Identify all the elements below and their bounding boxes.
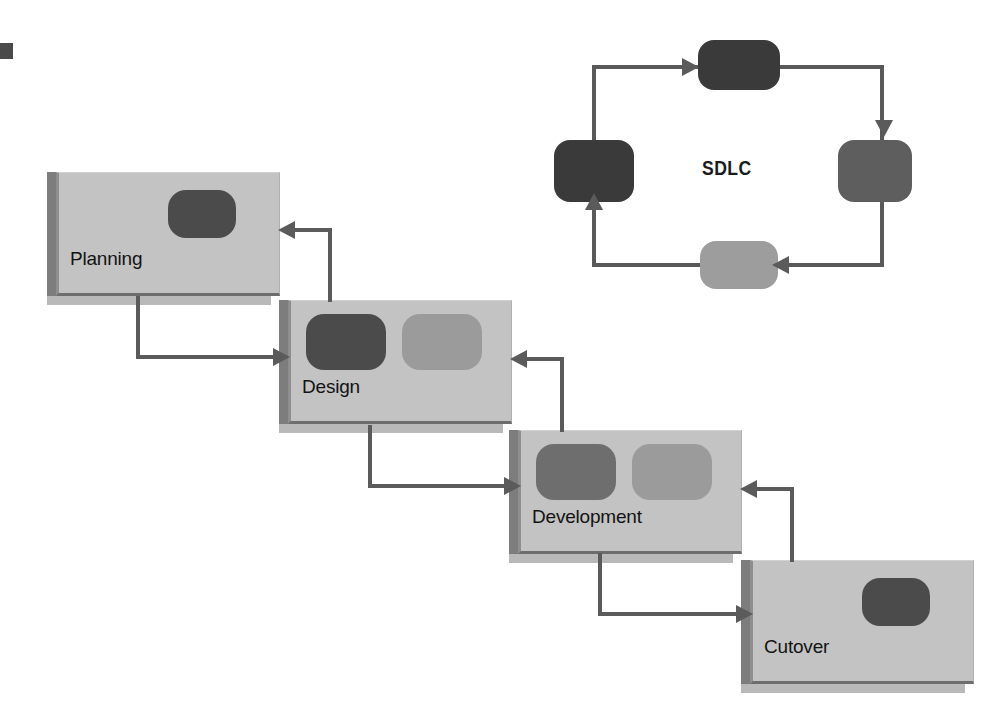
stage-label-design: Design [302,376,360,398]
connector-cutover-to-development-vertical [790,487,794,562]
stage-pill-primary [168,190,236,238]
stage-label-development: Development [532,506,642,528]
connector-development-to-design-horizontal [527,357,564,361]
stage-label-cutover: Cutover [764,636,829,658]
stage-label-planning: Planning [70,248,142,270]
arrowhead-design-to-planning [278,221,295,239]
cycle-node-right[interactable] [838,140,912,202]
stage-pill-primary [536,444,616,500]
connector-planning-to-design-vertical [136,296,140,359]
arrowhead-cutover-to-development [740,480,757,498]
arrowhead-design-to-development [504,477,521,495]
stage-planning[interactable]: Planning [56,172,280,296]
connector-planning-to-design-horizontal [136,355,276,359]
cycle-edge-bottom-left-horizontal [592,263,706,267]
stage-face [56,172,280,296]
cycle-node-bottom[interactable] [700,241,778,289]
connector-design-to-planning-vertical [328,228,332,302]
cycle-edge-upper-right-horizontal [768,65,884,69]
stage-design[interactable]: Design [288,300,512,424]
arrowhead-development-to-cutover [736,605,753,623]
stage-face [750,560,974,684]
cycle-arrowhead-into-top [682,58,699,76]
stage-cutover[interactable]: Cutover [750,560,974,684]
cycle-arrowhead-into-left [585,193,603,210]
connector-development-to-design-vertical [560,357,564,432]
connector-design-to-development-vertical [368,425,372,488]
connector-cutover-to-development-horizontal [757,487,794,491]
stage-pill-primary [306,314,386,370]
connector-development-to-cutover-horizontal [598,612,740,616]
stage-bevel [47,172,56,296]
stage-development[interactable]: Development [518,430,742,554]
cycle-node-top[interactable] [698,40,780,90]
arrowhead-planning-to-design [273,348,290,366]
connector-development-to-cutover-vertical [598,553,602,616]
cycle-arrowhead-into-bottom [772,256,789,274]
cycle-edge-bottom-right-horizontal [782,263,884,267]
connector-design-to-development-horizontal [368,484,508,488]
stage-pill-secondary [632,444,712,500]
page-edge-artifact [0,43,13,59]
stage-pill-primary [862,578,930,626]
arrowhead-development-to-design [510,350,527,368]
cycle-edge-right-vertical-lower [880,196,884,266]
cycle-arrowhead-into-right [875,120,893,137]
stage-pill-secondary [402,314,482,370]
cycle-title-sdlc: SDLC [702,157,752,180]
connector-design-to-planning-horizontal [295,228,332,232]
diagram-canvas: Planning Design Development Cutover [0,0,1003,721]
